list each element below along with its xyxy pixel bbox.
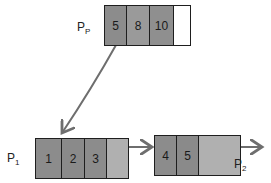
leaf1-key-cell: 2 — [62, 139, 85, 178]
parent-node: 5 8 10 — [104, 5, 191, 46]
leaf2-label: P2 — [234, 157, 246, 173]
parent-empty-cell — [174, 6, 190, 45]
leaf1-label: P1 — [7, 151, 19, 167]
parent-node-label: PP — [77, 20, 90, 36]
parent-to-leaf1-arrow — [62, 45, 116, 133]
leaf1-key-cell: 3 — [85, 139, 107, 178]
parent-key-cell: 5 — [105, 6, 127, 45]
leaf2-key-cell: 5 — [177, 136, 199, 175]
leaf-node-1: 1 2 3 — [35, 138, 129, 179]
leaf1-key-cell: 1 — [36, 139, 62, 178]
leaf-node-2: 4 5 — [154, 135, 241, 176]
parent-key-cell: 10 — [150, 6, 174, 45]
leaf2-key-cell: 4 — [155, 136, 177, 175]
leaf1-empty-cell — [107, 139, 128, 178]
parent-key-cell: 8 — [127, 6, 150, 45]
